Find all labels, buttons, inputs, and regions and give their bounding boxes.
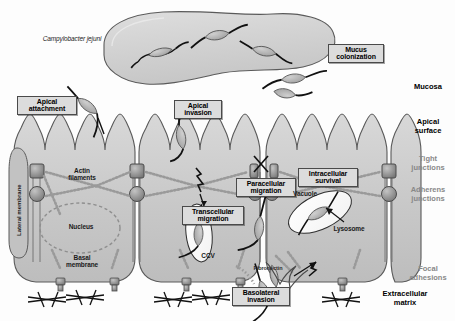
organism-name: Campylobacter jejuni <box>40 36 104 43</box>
label-lateral-membrane: Lateral membrane <box>16 184 22 236</box>
callout-basolateral-invasion[interactable]: Basolateralinvasion <box>232 287 290 306</box>
legend-mucosa: Mucosa <box>402 83 454 92</box>
label-ccv: CCV <box>197 253 219 260</box>
callout-apical-invasion[interactable]: Apicalinvasion <box>174 100 222 119</box>
callout-apical-attachment[interactable]: Apicalattachment <box>17 96 77 115</box>
callout-basolateral-invasion-label: Basolateralinvasion <box>243 289 280 303</box>
legend-focal-adhesions: Focaladhesions <box>402 265 454 282</box>
label-vacuole: Vacuole <box>288 191 322 198</box>
callout-apical-invasion-label: Apicalinvasion <box>184 102 212 116</box>
figure-canvas: Campylobacter jejuni Mucuscolonization A… <box>0 0 455 321</box>
callout-intracellular-survival-label: Intracellularsurvival <box>309 170 347 184</box>
legend-apical-surface: Apicalsurface <box>402 118 454 135</box>
legend-adherens-junctions: Adherensjunctions <box>402 186 454 203</box>
extracellular-matrix <box>28 290 360 307</box>
callout-paracellular-migration[interactable]: Paracellularmigration <box>236 178 296 197</box>
callout-transcellular-migration[interactable]: Transcellularmigration <box>182 206 244 225</box>
label-lysosome: Lysosome <box>330 226 368 233</box>
label-basal-membrane: Basalmembrane <box>58 255 106 269</box>
diagram-svg <box>0 0 455 321</box>
legend-extracellular-matrix: Extracellularmatrix <box>368 290 442 307</box>
callout-apical-attachment-label: Apicalattachment <box>29 98 65 112</box>
legend-tight-junctions: Tightjunctions <box>402 155 454 172</box>
callout-mucus-colonization[interactable]: Mucuscolonization <box>328 44 384 63</box>
callout-paracellular-migration-label: Paracellularmigration <box>247 180 286 194</box>
callout-transcellular-migration-label: Transcellularmigration <box>192 208 234 222</box>
mucus-layer <box>104 12 335 85</box>
callout-mucus-colonization-label: Mucuscolonization <box>336 46 376 60</box>
callout-intracellular-survival[interactable]: Intracellularsurvival <box>298 168 358 187</box>
label-actin-filaments: Actinfilaments <box>60 168 104 182</box>
label-fibronectin: Fibronectin <box>249 266 287 272</box>
label-nucleus: Nucleus <box>58 224 104 231</box>
